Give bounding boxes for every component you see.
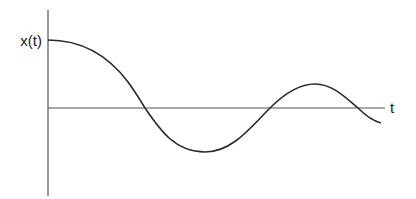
y-axis-label: x(t)	[20, 32, 42, 49]
oscillation-diagram: x(t) t	[0, 0, 416, 199]
damped-oscillation-curve	[48, 40, 381, 152]
x-axis-label: t	[390, 99, 395, 116]
